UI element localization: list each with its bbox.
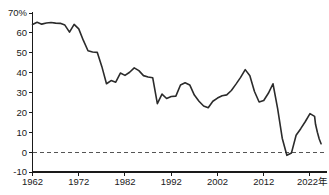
- x-axis-tick-labels: 1962197219821992200220122022年: [22, 176, 328, 187]
- y-tick-label: 0: [22, 147, 27, 158]
- x-tick-label: 1982: [114, 176, 135, 187]
- x-tick-label: 1962: [22, 176, 43, 187]
- y-tick-label: 70%: [8, 7, 28, 18]
- y-tick-label: 50: [16, 47, 27, 58]
- y-tick-label: 10: [16, 127, 27, 138]
- x-tick-label: 2012: [253, 176, 274, 187]
- y-tick-label: 60: [16, 27, 27, 38]
- y-tick-label: 20: [16, 107, 27, 118]
- x-tick-label: 2022年: [297, 176, 328, 187]
- x-tick-label: 1972: [68, 176, 89, 187]
- x-tick-label: 1992: [161, 176, 182, 187]
- line-chart: -10010203040506070% 19621972198219922002…: [0, 0, 329, 195]
- y-tick-label: 40: [16, 67, 27, 78]
- y-tick-label: 30: [16, 87, 27, 98]
- x-tick-label: 2002: [207, 176, 228, 187]
- data-series-line: [33, 22, 322, 155]
- chart-container: -10010203040506070% 19621972198219922002…: [0, 0, 329, 195]
- y-axis-tick-labels: -10010203040506070%: [8, 7, 28, 177]
